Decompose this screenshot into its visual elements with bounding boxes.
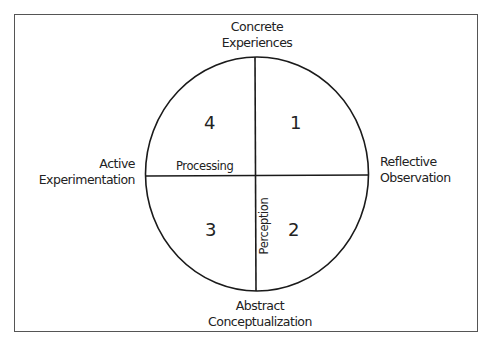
pole-bottom-label: Abstract Conceptualization (195, 298, 325, 330)
pole-top-line1: Concrete (207, 19, 307, 35)
quadrant-4-number: 4 (204, 112, 215, 133)
processing-axis-label: Processing (176, 159, 233, 173)
quadrant-2-number: 2 (288, 219, 299, 240)
pole-top-label: Concrete Experiences (207, 19, 307, 51)
pole-left-label: Active Experimentation (30, 156, 135, 188)
perception-axis-label: Perception (257, 193, 271, 259)
pole-left-line2: Experimentation (30, 172, 135, 188)
quadrant-3-number: 3 (205, 219, 216, 240)
pole-right-line1: Reflective (380, 154, 490, 170)
pole-left-line1: Active (30, 156, 135, 172)
pole-right-label: Reflective Observation (380, 154, 490, 186)
pole-bottom-line2: Conceptualization (195, 314, 325, 330)
horizontal-axis (146, 175, 368, 176)
pole-top-line2: Experiences (207, 35, 307, 51)
pole-right-line2: Observation (380, 170, 490, 186)
vertical-axis (255, 57, 256, 291)
quadrant-1-number: 1 (290, 112, 301, 133)
pole-bottom-line1: Abstract (195, 298, 325, 314)
